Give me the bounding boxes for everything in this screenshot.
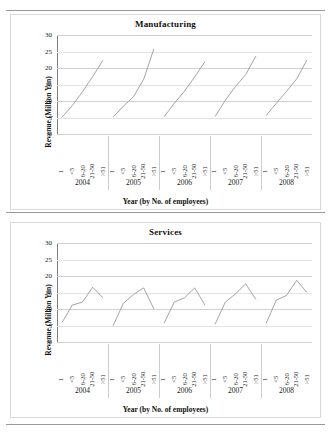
- chart-panel-services: Services Revenue (Million Yen) 051015202…: [10, 222, 321, 418]
- series-line-2005: [113, 49, 154, 117]
- category-tick-2008->51: >51: [302, 138, 311, 174]
- series-line-2006: [164, 62, 205, 117]
- category-tick-band-manufacturing: 1<56-2021-50>511<56-2021-50>511<56-2021-…: [57, 136, 312, 174]
- page-rule-middle: [6, 212, 325, 213]
- x-axis-title-manufacturing: Year (by No. of employees): [11, 197, 320, 206]
- y-tick-label-15: 15: [45, 81, 52, 89]
- category-tick-2008-<5: <5: [272, 138, 281, 174]
- series-line-2007: [215, 56, 256, 116]
- category-tick-label: 1: [212, 169, 219, 172]
- group-separator: [108, 136, 109, 190]
- gridline-0: [57, 134, 312, 135]
- year-label-2005: 2005: [108, 174, 159, 190]
- group-separator: [210, 344, 211, 398]
- x-axis-title-services: Year (by No. of employees): [11, 405, 320, 414]
- category-tick-2006-21-50: 21-50: [190, 138, 199, 174]
- year-label-2004: 2004: [57, 382, 108, 398]
- category-tick-2007-1: 1: [211, 346, 220, 382]
- category-tick-2006-6-20: 6-20: [180, 346, 189, 382]
- category-tick-2006-21-50: 21-50: [190, 346, 199, 382]
- year-label-2004: 2004: [57, 174, 108, 190]
- category-tick-2004-21-50: 21-50: [88, 346, 97, 382]
- category-tick-band-services: 1<56-2021-50>511<56-2021-50>511<56-2021-…: [57, 344, 312, 382]
- group-separator: [159, 344, 160, 398]
- series-line-2004: [62, 60, 103, 117]
- year-band-manufacturing: 20042005200620072008: [57, 174, 312, 190]
- category-tick-2008-21-50: 21-50: [292, 346, 301, 382]
- series-line-2005: [113, 288, 154, 326]
- y-tick-label-5: 5: [49, 114, 53, 122]
- category-tick-label: 1: [110, 169, 117, 172]
- y-tick-label-20: 20: [45, 272, 52, 280]
- category-tick-2005-21-50: 21-50: [139, 138, 148, 174]
- page-rule-top: [6, 10, 325, 11]
- category-tick-2007-<5: <5: [221, 138, 230, 174]
- year-label-2008: 2008: [261, 382, 312, 398]
- category-tick-2008-1: 1: [262, 346, 271, 382]
- category-tick-2004-<5: <5: [68, 138, 77, 174]
- category-tick-label: 1: [161, 169, 168, 172]
- group-separator: [261, 136, 262, 190]
- category-tick-2004-6-20: 6-20: [78, 138, 87, 174]
- category-tick-2008-6-20: 6-20: [282, 138, 291, 174]
- page-rule-bottom: [6, 424, 325, 425]
- category-tick-2006-1: 1: [160, 346, 169, 382]
- category-tick-2007->51: >51: [251, 346, 260, 382]
- y-tick-label-30: 30: [45, 239, 52, 247]
- y-tick-label-5: 5: [49, 322, 53, 330]
- category-tick-2007-1: 1: [211, 138, 220, 174]
- category-tick-label: 1: [161, 377, 168, 380]
- category-tick-2004-6-20: 6-20: [78, 346, 87, 382]
- category-tick-2004->51: >51: [98, 138, 107, 174]
- group-separator: [159, 136, 160, 190]
- chart-title-services: Services: [11, 227, 320, 237]
- category-tick-2006-<5: <5: [170, 346, 179, 382]
- y-tick-label-30: 30: [45, 31, 52, 39]
- plot-area-manufacturing: 051015202530: [57, 35, 312, 134]
- category-tick-2006-1: 1: [160, 138, 169, 174]
- chart-title-manufacturing: Manufacturing: [11, 19, 320, 29]
- series-line-2006: [164, 288, 205, 323]
- y-tick-label-25: 25: [45, 48, 52, 56]
- category-tick-label: 1: [212, 377, 219, 380]
- category-tick-label: 1: [263, 377, 270, 380]
- year-label-2005: 2005: [108, 382, 159, 398]
- plot-area-services: 051015202530: [57, 243, 312, 342]
- group-separator: [261, 344, 262, 398]
- series-line-2008: [266, 60, 307, 115]
- year-label-2007: 2007: [210, 382, 261, 398]
- category-tick-2007->51: >51: [251, 138, 260, 174]
- category-tick-2004-1: 1: [58, 346, 67, 382]
- category-tick-2005->51: >51: [149, 346, 158, 382]
- series-line-2008: [266, 280, 307, 323]
- category-tick-label: 1: [110, 377, 117, 380]
- category-tick-2007-<5: <5: [221, 346, 230, 382]
- category-tick-2005-6-20: 6-20: [129, 138, 138, 174]
- figure-page: Manufacturing Revenue (Million Yen) 0510…: [0, 0, 331, 433]
- category-tick-2005-21-50: 21-50: [139, 346, 148, 382]
- y-tick-label-15: 15: [45, 289, 52, 297]
- category-tick-2005-1: 1: [109, 138, 118, 174]
- year-label-2008: 2008: [261, 174, 312, 190]
- year-band-services: 20042005200620072008: [57, 382, 312, 398]
- series-lines: [57, 35, 312, 134]
- y-tick-label-20: 20: [45, 64, 52, 72]
- category-tick-2007-21-50: 21-50: [241, 346, 250, 382]
- category-tick-2006->51: >51: [200, 138, 209, 174]
- gridline-0: [57, 342, 312, 343]
- category-tick-2005-1: 1: [109, 346, 118, 382]
- category-tick-label: 1: [59, 169, 66, 172]
- category-tick-2004-<5: <5: [68, 346, 77, 382]
- y-tick-label-10: 10: [45, 305, 52, 313]
- category-tick-2007-21-50: 21-50: [241, 138, 250, 174]
- category-tick-2005-6-20: 6-20: [129, 346, 138, 382]
- category-tick-2004-1: 1: [58, 138, 67, 174]
- category-tick-label: 1: [59, 377, 66, 380]
- series-lines: [57, 243, 312, 342]
- category-tick-2007-6-20: 6-20: [231, 138, 240, 174]
- chart-panel-manufacturing: Manufacturing Revenue (Million Yen) 0510…: [10, 14, 321, 210]
- category-tick-2008-1: 1: [262, 138, 271, 174]
- category-tick-2005->51: >51: [149, 138, 158, 174]
- category-tick-2005-<5: <5: [119, 346, 128, 382]
- y-tick-label-25: 25: [45, 256, 52, 264]
